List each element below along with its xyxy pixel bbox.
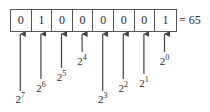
place-value-label-2-5: 25: [57, 71, 67, 83]
place-value-label-2-6: 26: [36, 82, 46, 94]
place-value-label-2-2: 22: [119, 82, 129, 94]
place-value-label-2-4: 24: [77, 55, 87, 67]
place-value-label-2-1: 21: [139, 77, 149, 89]
place-value-label-2-3: 23: [98, 93, 108, 105]
place-value-label-2-0: 20: [160, 55, 170, 67]
place-value-label-2-7: 27: [16, 93, 26, 105]
